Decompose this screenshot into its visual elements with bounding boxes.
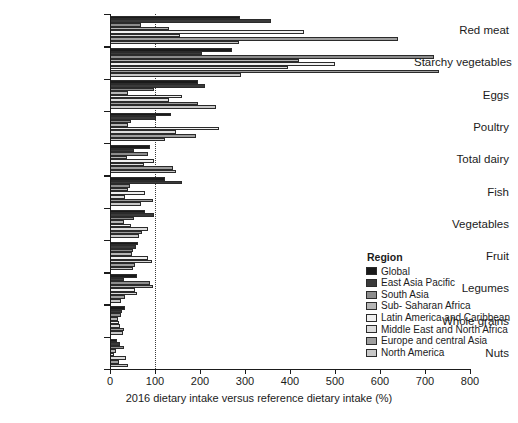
bar	[110, 202, 141, 206]
legend-items: GlobalEast Asia PacificSouth AsiaSub- Sa…	[366, 266, 510, 359]
x-axis-tick	[425, 369, 426, 374]
bar	[110, 41, 239, 45]
legend-title: Region	[366, 252, 510, 264]
legend-item-label: Sub- Saharan Africa	[381, 300, 471, 312]
legend-swatch-icon	[366, 337, 377, 345]
category-label: Poultry	[414, 121, 518, 133]
x-axis-tick	[110, 369, 111, 374]
x-axis-tick-label: 600	[371, 375, 389, 387]
bar-row	[110, 41, 470, 45]
legend-swatch-icon	[366, 267, 377, 275]
x-axis-title: 2016 dietary intake versus reference die…	[0, 392, 518, 404]
legend-item[interactable]: East Asia Pacific	[366, 277, 510, 289]
legend-item-label: Latin America and Caribbean	[381, 312, 510, 324]
y-axis-tick	[104, 240, 110, 241]
legend-item-label: Middle East and North Africa	[381, 324, 508, 336]
category-label: Vegetables	[414, 218, 518, 230]
x-axis-tick-label: 300	[236, 375, 254, 387]
bar-row	[110, 105, 470, 109]
y-axis-tick	[104, 208, 110, 209]
legend-swatch-icon	[366, 291, 377, 299]
legend-item-label: East Asia Pacific	[381, 277, 455, 289]
legend-swatch-icon	[366, 349, 377, 357]
bar	[110, 364, 128, 368]
legend-item[interactable]: Europe and central Asia	[366, 335, 510, 347]
x-axis-tick-label: 500	[326, 375, 344, 387]
bar	[110, 299, 121, 303]
legend-item[interactable]: North America	[366, 347, 510, 359]
bar	[110, 73, 241, 77]
y-axis-tick	[104, 14, 110, 15]
x-axis-tick	[470, 369, 471, 374]
bar-row	[110, 138, 470, 142]
category-label: Red meat	[414, 24, 518, 36]
x-axis-tick	[290, 369, 291, 374]
x-axis-tick	[335, 369, 336, 374]
legend-swatch-icon	[366, 314, 377, 322]
y-axis-tick	[104, 337, 110, 338]
y-axis-tick	[104, 46, 110, 47]
bar-row	[110, 364, 470, 368]
bar	[110, 105, 216, 109]
x-axis-tick	[380, 369, 381, 374]
legend-item-label: Global	[381, 266, 410, 278]
legend: Region GlobalEast Asia PacificSouth Asia…	[366, 252, 510, 358]
legend-item[interactable]: South Asia	[366, 289, 510, 301]
x-axis-tick	[155, 369, 156, 374]
bar	[110, 234, 139, 238]
bar-row	[110, 73, 470, 77]
bar	[110, 267, 133, 271]
bar	[110, 331, 123, 335]
legend-item[interactable]: Middle East and North Africa	[366, 324, 510, 336]
category-label: Starchy vegetables	[414, 56, 518, 68]
y-axis-tick	[104, 304, 110, 305]
legend-item[interactable]: Sub- Saharan Africa	[366, 300, 510, 312]
legend-item-label: Europe and central Asia	[381, 335, 487, 347]
y-axis-tick	[104, 143, 110, 144]
legend-item-label: South Asia	[381, 289, 429, 301]
y-axis-tick	[104, 111, 110, 112]
legend-item-label: North America	[381, 347, 444, 359]
legend-swatch-icon	[366, 325, 377, 333]
bar-row	[110, 202, 470, 206]
legend-item[interactable]: Latin America and Caribbean	[366, 312, 510, 324]
category-label: Total dairy	[414, 153, 518, 165]
x-axis-tick-label: 200	[191, 375, 209, 387]
legend-item[interactable]: Global	[366, 266, 510, 278]
category-label: Eggs	[414, 89, 518, 101]
bar-chart: Red meatStarchy vegetablesEggsPoultryTot…	[0, 0, 518, 423]
legend-swatch-icon	[366, 302, 377, 310]
y-axis-tick	[104, 272, 110, 273]
x-axis-tick-label: 400	[281, 375, 299, 387]
x-axis-tick-label: 700	[416, 375, 434, 387]
bar	[110, 170, 176, 174]
y-axis-tick	[104, 175, 110, 176]
x-axis-tick-label: 800	[461, 375, 479, 387]
x-axis-tick	[245, 369, 246, 374]
bar-row	[110, 170, 470, 174]
x-axis-tick-label: 100	[146, 375, 164, 387]
legend-swatch-icon	[366, 279, 377, 287]
y-axis-tick	[104, 79, 110, 80]
y-axis-line	[110, 14, 111, 369]
x-axis-tick	[200, 369, 201, 374]
bar-row	[110, 234, 470, 238]
category-label: Fish	[414, 186, 518, 198]
x-axis-tick-label: 0	[107, 375, 113, 387]
bar	[110, 138, 165, 142]
